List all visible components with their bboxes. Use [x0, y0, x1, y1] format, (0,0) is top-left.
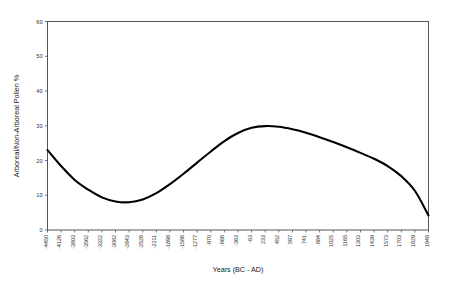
x-tick-label: -4126	[56, 235, 62, 249]
x-tick-label: -3562	[83, 235, 89, 249]
x-tick-label: -2526	[138, 235, 144, 249]
y-tick-label: 30	[36, 123, 42, 129]
x-tick-label: 1573	[383, 235, 389, 247]
x-tick-label: -3082	[111, 235, 117, 249]
x-tick-label: -970	[206, 235, 212, 246]
x-axis-title: Years (BC - AD)	[213, 265, 264, 274]
x-tick-label: -2843	[124, 235, 130, 249]
x-axis-tick-labels: -4450-4126-3803-3562-3322-3082-2843-2526…	[43, 235, 430, 249]
x-tick-label: -2211	[151, 235, 157, 248]
y-tick-label: 10	[36, 192, 42, 198]
y-tick-label: 0	[39, 227, 42, 233]
x-tick-label: 597	[287, 235, 293, 244]
y-tick-label: 50	[36, 53, 42, 59]
x-tick-label: -4450	[43, 235, 49, 249]
x-tick-label: -3803	[70, 235, 76, 249]
x-tick-label: -1586	[179, 235, 185, 249]
x-tick-label: 1165	[342, 235, 348, 247]
x-tick-label: -666	[219, 235, 225, 246]
x-tick-label: 1948	[424, 235, 430, 247]
y-tick-label: 60	[36, 19, 42, 25]
x-tick-label: 1025	[328, 235, 334, 247]
chart-canvas: 0102030405060 -4450-4126-3803-3562-3322-…	[0, 0, 451, 282]
x-tick-label: 452	[274, 235, 280, 244]
x-tick-label: 884	[315, 235, 321, 244]
x-tick-label: 233	[260, 235, 266, 244]
x-tick-label: 741	[301, 235, 307, 244]
x-tick-label: -1277	[192, 235, 198, 249]
y-tick-label: 40	[36, 88, 42, 94]
x-tick-label: 1303	[355, 235, 361, 247]
y-tick-label: 20	[36, 158, 42, 164]
x-tick-label: -363	[233, 235, 239, 246]
pollen-percentage-line-chart: 0102030405060 -4450-4126-3803-3562-3322-…	[0, 0, 451, 282]
x-tick-label: -1898	[165, 235, 171, 249]
x-tick-label: 1829	[410, 235, 416, 247]
x-tick-label: -3322	[97, 235, 103, 249]
x-tick-label: 1439	[369, 235, 375, 247]
x-tick-label: -63	[247, 235, 253, 243]
y-axis-title: Arboreal/Non-Arboreal Pollen %	[12, 74, 21, 177]
x-tick-label: 1703	[396, 235, 402, 247]
